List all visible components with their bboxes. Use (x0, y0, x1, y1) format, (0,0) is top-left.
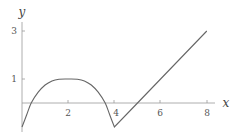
y-axis-label: y (18, 5, 26, 19)
x-tick-label-2: 2 (65, 108, 71, 118)
y-tick-label-1: 1 (11, 74, 17, 84)
y-tick-label-3: 3 (11, 26, 17, 36)
x-tick-label-6: 6 (157, 108, 163, 118)
x-tick-label-4: 4 (113, 108, 119, 118)
function-plot: 1 3 2 4 6 8 y x (0, 0, 238, 133)
x-tick-label-8: 8 (204, 108, 210, 118)
x-axis-label: x (223, 96, 230, 110)
